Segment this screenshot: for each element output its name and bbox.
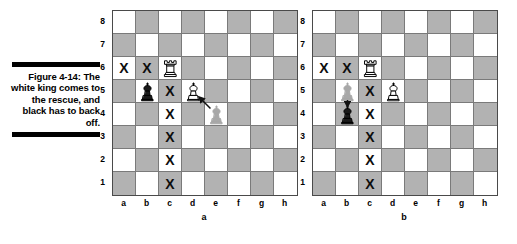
square-c7[interactable] (359, 34, 382, 57)
square-a1[interactable] (313, 172, 336, 195)
square-g8[interactable] (451, 11, 474, 34)
square-a7[interactable] (113, 34, 136, 57)
square-h6[interactable] (474, 57, 497, 80)
square-g6[interactable] (451, 57, 474, 80)
square-g3[interactable] (451, 126, 474, 149)
square-d8[interactable] (382, 11, 405, 34)
square-h2[interactable] (274, 149, 297, 172)
square-a2[interactable] (313, 149, 336, 172)
square-b3[interactable] (336, 126, 359, 149)
square-g7[interactable] (251, 34, 274, 57)
square-h4[interactable] (474, 103, 497, 126)
square-a3[interactable] (313, 126, 336, 149)
square-h1[interactable] (274, 172, 297, 195)
square-f1[interactable] (228, 172, 251, 195)
square-b1[interactable] (336, 172, 359, 195)
square-b7[interactable] (336, 34, 359, 57)
square-d4[interactable] (182, 103, 205, 126)
square-c6[interactable] (359, 57, 382, 80)
square-f2[interactable] (228, 149, 251, 172)
square-c1[interactable]: X (359, 172, 382, 195)
square-f8[interactable] (228, 11, 251, 34)
square-f3[interactable] (428, 126, 451, 149)
square-g5[interactable] (251, 80, 274, 103)
square-a7[interactable] (313, 34, 336, 57)
square-d5[interactable] (382, 80, 405, 103)
square-e7[interactable] (205, 34, 228, 57)
square-d3[interactable] (182, 126, 205, 149)
square-b1[interactable] (136, 172, 159, 195)
square-b5[interactable] (336, 80, 359, 103)
square-g4[interactable] (451, 103, 474, 126)
square-b3[interactable] (136, 126, 159, 149)
square-d1[interactable] (382, 172, 405, 195)
square-d2[interactable] (182, 149, 205, 172)
square-d5[interactable] (182, 80, 205, 103)
square-a5[interactable] (313, 80, 336, 103)
square-c4[interactable]: X (359, 103, 382, 126)
square-c8[interactable] (159, 11, 182, 34)
square-d2[interactable] (382, 149, 405, 172)
square-a3[interactable] (113, 126, 136, 149)
square-h5[interactable] (274, 80, 297, 103)
square-a5[interactable] (113, 80, 136, 103)
square-g1[interactable] (451, 172, 474, 195)
square-b4[interactable] (136, 103, 159, 126)
square-f6[interactable] (428, 57, 451, 80)
square-f3[interactable] (228, 126, 251, 149)
square-h6[interactable] (274, 57, 297, 80)
square-d4[interactable] (382, 103, 405, 126)
square-a6[interactable]: X (113, 57, 136, 80)
square-b2[interactable] (136, 149, 159, 172)
square-b8[interactable] (136, 11, 159, 34)
square-d6[interactable] (182, 57, 205, 80)
square-g4[interactable] (251, 103, 274, 126)
square-f6[interactable] (228, 57, 251, 80)
square-f2[interactable] (428, 149, 451, 172)
square-f4[interactable] (228, 103, 251, 126)
square-a4[interactable] (313, 103, 336, 126)
square-e3[interactable] (205, 126, 228, 149)
square-c8[interactable] (359, 11, 382, 34)
square-a8[interactable] (113, 11, 136, 34)
square-h8[interactable] (274, 11, 297, 34)
square-h7[interactable] (274, 34, 297, 57)
square-e4[interactable] (405, 103, 428, 126)
square-e8[interactable] (405, 11, 428, 34)
square-h1[interactable] (474, 172, 497, 195)
square-e2[interactable] (405, 149, 428, 172)
square-e8[interactable] (205, 11, 228, 34)
square-g8[interactable] (251, 11, 274, 34)
square-h3[interactable] (474, 126, 497, 149)
square-c6[interactable] (159, 57, 182, 80)
square-e4[interactable] (205, 103, 228, 126)
square-b2[interactable] (336, 149, 359, 172)
square-g6[interactable] (251, 57, 274, 80)
square-a4[interactable] (113, 103, 136, 126)
square-d1[interactable] (182, 172, 205, 195)
square-g1[interactable] (251, 172, 274, 195)
square-b7[interactable] (136, 34, 159, 57)
square-f7[interactable] (228, 34, 251, 57)
square-d7[interactable] (182, 34, 205, 57)
square-g2[interactable] (251, 149, 274, 172)
square-f5[interactable] (228, 80, 251, 103)
square-b5[interactable] (136, 80, 159, 103)
square-c2[interactable]: X (159, 149, 182, 172)
square-a1[interactable] (113, 172, 136, 195)
square-h5[interactable] (474, 80, 497, 103)
square-c1[interactable]: X (159, 172, 182, 195)
square-e1[interactable] (205, 172, 228, 195)
square-e3[interactable] (405, 126, 428, 149)
square-h4[interactable] (274, 103, 297, 126)
square-h8[interactable] (474, 11, 497, 34)
square-a2[interactable] (113, 149, 136, 172)
square-d7[interactable] (382, 34, 405, 57)
square-d6[interactable] (382, 57, 405, 80)
square-e5[interactable] (405, 80, 428, 103)
square-d3[interactable] (382, 126, 405, 149)
square-f1[interactable] (428, 172, 451, 195)
square-b6[interactable]: X (336, 57, 359, 80)
square-c4[interactable]: X (159, 103, 182, 126)
square-h2[interactable] (474, 149, 497, 172)
